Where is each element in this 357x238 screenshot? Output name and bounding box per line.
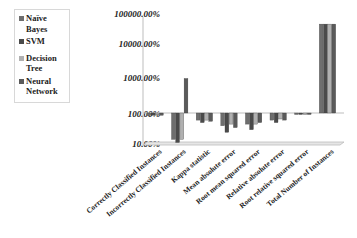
bar xyxy=(278,113,282,119)
bar xyxy=(303,113,307,115)
bar xyxy=(254,113,258,124)
bar xyxy=(176,113,180,143)
bar xyxy=(324,24,328,113)
bar xyxy=(307,113,311,115)
bar xyxy=(250,113,254,130)
bar xyxy=(229,113,233,124)
bar xyxy=(233,113,237,128)
bar xyxy=(155,113,159,115)
bar xyxy=(319,24,323,113)
bar xyxy=(332,24,336,113)
bar xyxy=(147,113,151,115)
bar xyxy=(270,113,274,120)
bar xyxy=(328,24,332,113)
bar xyxy=(245,113,249,124)
bar xyxy=(172,113,176,139)
bar xyxy=(299,113,303,115)
bar xyxy=(221,113,225,126)
plot-area xyxy=(0,0,357,238)
bar xyxy=(209,113,213,121)
bar xyxy=(184,79,188,114)
bar xyxy=(180,113,184,139)
bar xyxy=(274,113,278,123)
bar xyxy=(258,113,262,123)
bar xyxy=(160,113,164,115)
bar xyxy=(283,113,287,120)
bar xyxy=(151,113,155,115)
bar xyxy=(225,113,229,132)
bar xyxy=(196,113,200,120)
bar xyxy=(205,113,209,120)
bar xyxy=(295,113,299,115)
bar xyxy=(200,113,204,123)
